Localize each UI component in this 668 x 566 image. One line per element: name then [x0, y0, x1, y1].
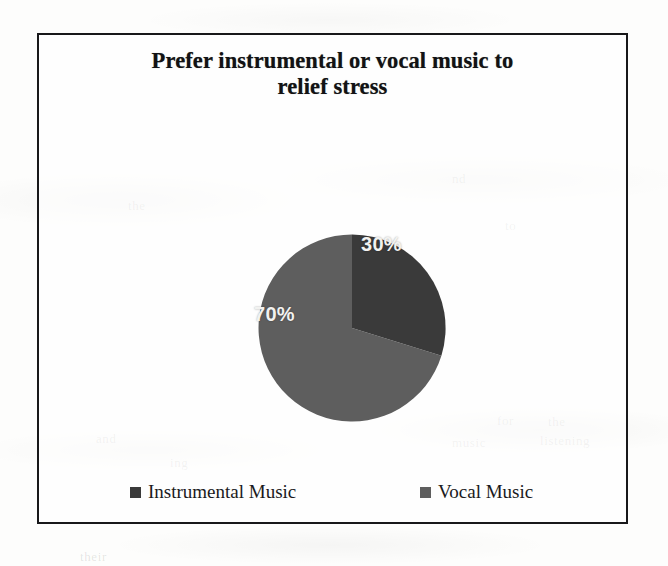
chart-title: Prefer instrumental or vocal music to re… [39, 48, 626, 100]
plot-area: 30% 70% [39, 185, 626, 445]
legend-label: Instrumental Music [148, 481, 296, 503]
ghost-text: their [80, 549, 107, 565]
legend-item-instrumental-music[interactable]: Instrumental Music [130, 481, 296, 503]
chart-legend: Instrumental Music Vocal Music [39, 477, 626, 517]
chart-container: Prefer instrumental or vocal music to re… [37, 33, 628, 524]
pie-chart [258, 234, 446, 422]
chart-title-line-2: relief stress [39, 74, 626, 100]
pie-svg [258, 234, 446, 422]
legend-swatch-icon [420, 487, 431, 498]
pie-label-vocal-music: 70% [254, 303, 295, 326]
legend-swatch-icon [130, 487, 141, 498]
legend-label: Vocal Music [438, 481, 533, 503]
chart-title-line-1: Prefer instrumental or vocal music to [39, 48, 626, 74]
pie-label-instrumental-music: 30% [361, 233, 402, 256]
legend-item-vocal-music[interactable]: Vocal Music [420, 481, 533, 503]
